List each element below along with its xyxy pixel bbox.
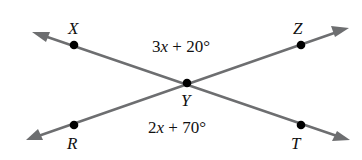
angle-top-coef: 3: [152, 37, 161, 56]
angle-top-rest: + 20°: [168, 37, 210, 56]
point-r: [70, 121, 79, 130]
intersecting-lines-diagram: X Z Y R T 3x + 20° 2x + 70°: [0, 0, 362, 160]
label-y: Y: [181, 91, 192, 110]
angle-bottom-label: 2x + 70°: [148, 118, 206, 137]
arrowhead-lower-left-icon: [26, 129, 43, 140]
arrowhead-lower-right-icon: [332, 131, 350, 141]
arrowhead-upper-right-icon: [331, 26, 349, 37]
angle-bottom-coef: 2: [148, 118, 157, 137]
point-t: [297, 121, 306, 130]
arrowhead-upper-left-icon: [32, 32, 50, 42]
point-x: [70, 41, 79, 50]
angle-top-label: 3x + 20°: [152, 37, 210, 56]
label-t: T: [291, 134, 302, 153]
angle-bottom-rest: + 70°: [164, 118, 206, 137]
label-r: R: [66, 134, 78, 153]
point-z: [297, 41, 306, 50]
label-x: X: [67, 19, 79, 38]
label-z: Z: [293, 19, 303, 38]
point-y: [183, 79, 192, 88]
